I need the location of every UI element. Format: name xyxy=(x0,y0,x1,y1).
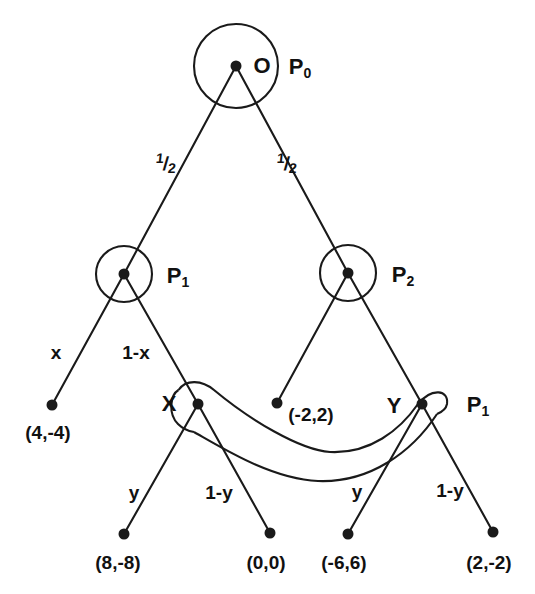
edge-root-to-p1 xyxy=(124,66,236,274)
leaf-dot-0-0 xyxy=(265,528,276,539)
node-label-y: Y xyxy=(387,395,402,417)
frac-den-right: 2 xyxy=(288,160,297,176)
frac-den-left: 2 xyxy=(167,160,176,176)
node-label-root: O xyxy=(253,55,270,77)
payoff-label-4-minus4: (4,-4) xyxy=(25,423,70,442)
edge-p1-to-x-node xyxy=(124,274,198,404)
player-label-p1-at-y-sub: 1 xyxy=(481,403,489,419)
leaf-dot-minus6-6 xyxy=(343,529,354,540)
node-dot-x xyxy=(193,399,204,410)
edge-p1-to-leaf-4-minus4 xyxy=(52,274,124,405)
player-label-p2-sub: 2 xyxy=(406,273,414,289)
node-label-x: X xyxy=(162,393,177,415)
player-label-p0-base: P xyxy=(289,54,304,79)
edge-label-1-minus-x: 1-x xyxy=(122,343,149,362)
payoff-label-0-0: (0,0) xyxy=(246,553,285,572)
node-dot-p2 xyxy=(343,268,354,279)
player-label-p1-at-y: P1 xyxy=(467,394,489,418)
edge-y-to-leaf-minus6-6 xyxy=(348,404,422,534)
leaf-dot-2-minus2 xyxy=(488,527,499,538)
player-label-p2: P2 xyxy=(392,264,414,288)
game-tree-diagram: O P0 P1 P2 P1 X Y 1/2 1/2 x 1-x y 1-y y … xyxy=(0,0,535,594)
payoff-label-minus2-2: (-2,2) xyxy=(288,405,333,424)
player-label-p0-sub: 0 xyxy=(303,65,311,81)
node-dot-root xyxy=(231,61,242,72)
node-dot-p1 xyxy=(119,269,130,280)
edge-x-to-leaf-8-minus8 xyxy=(124,404,198,534)
node-dot-y xyxy=(417,399,428,410)
leaf-dot-minus2-2 xyxy=(272,398,283,409)
payoff-label-minus6-6: (-6,6) xyxy=(321,553,366,572)
edge-p2-to-y-node xyxy=(348,273,422,404)
leaf-dot-4-minus4 xyxy=(47,400,58,411)
player-label-p1-sub: 1 xyxy=(181,274,189,290)
player-label-p1-base: P xyxy=(167,263,182,288)
tree-graphics xyxy=(0,0,535,594)
edge-label-y-right: y xyxy=(352,482,363,501)
leaf-dot-8-minus8 xyxy=(119,529,130,540)
edge-p2-to-leaf-minus2-2 xyxy=(277,273,348,403)
player-label-p1-at-y-base: P xyxy=(467,392,482,417)
edge-label-x: x xyxy=(51,343,62,362)
player-label-p1: P1 xyxy=(167,265,189,289)
edge-label-1-minus-y-left: 1-y xyxy=(205,483,232,502)
edge-label-root-right: 1/2 xyxy=(277,151,298,175)
edge-label-y-left: y xyxy=(129,483,140,502)
payoff-label-2-minus2: (2,-2) xyxy=(466,553,511,572)
edge-y-to-leaf-2-minus2 xyxy=(422,404,493,532)
edge-label-root-left: 1/2 xyxy=(156,151,177,175)
edge-label-1-minus-y-right: 1-y xyxy=(436,481,463,500)
player-label-p0: P0 xyxy=(289,56,311,80)
player-label-p2-base: P xyxy=(392,262,407,287)
payoff-label-8-minus8: (8,-8) xyxy=(95,553,140,572)
